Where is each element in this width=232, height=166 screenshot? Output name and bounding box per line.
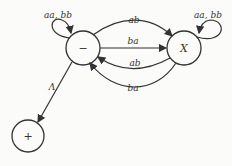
- svg-text:+: +: [23, 130, 32, 143]
- edge-loop-x: aa, bb: [194, 10, 222, 39]
- state-x: X: [167, 31, 201, 65]
- svg-text:X: X: [179, 42, 189, 55]
- svg-text:ba: ba: [127, 83, 138, 93]
- automaton-diagram: − X + aa, bb aa, bb ab ba ab ba Λ: [0, 0, 232, 166]
- svg-text:ba: ba: [127, 36, 138, 46]
- svg-text:−: −: [78, 42, 87, 55]
- edge-loop-start: aa, bb: [44, 10, 72, 38]
- edge-ab-back: ab: [98, 57, 170, 68]
- edge-ab-forward: ab: [93, 15, 172, 36]
- state-start: −: [66, 31, 100, 65]
- svg-text:aa, bb: aa, bb: [44, 10, 72, 20]
- edge-lambda: Λ: [38, 62, 72, 122]
- edge-ba-forward: ba: [100, 36, 166, 48]
- svg-text:ab: ab: [128, 15, 139, 25]
- svg-text:Λ: Λ: [48, 82, 56, 92]
- svg-text:aa, bb: aa, bb: [194, 10, 222, 20]
- svg-text:ab: ab: [129, 58, 140, 68]
- state-final: +: [12, 120, 44, 152]
